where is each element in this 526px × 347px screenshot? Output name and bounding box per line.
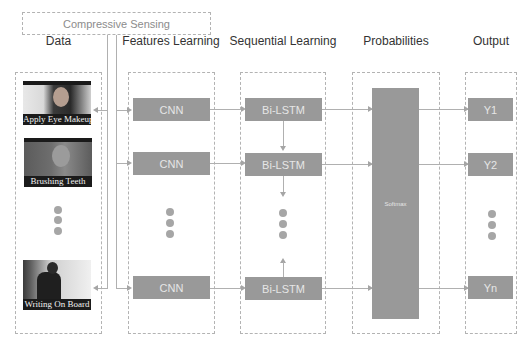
data-thumbnail-brushing-teeth: Brushing Teeth [24,138,92,187]
bilstm-block-2: Bi-LSTM [245,153,322,176]
connector [97,110,107,111]
data-thumbnail-writing-on-board: Writing On Board [23,260,91,310]
arrow-down-icon [280,192,286,197]
connector [419,288,468,289]
connector [283,262,284,277]
cnn-label: CNN [160,104,184,116]
output-block-y1: Y1 [468,98,513,121]
thumbnail-caption: Apply Eye Makeup [23,114,91,125]
connector [210,288,244,289]
ellipsis-dot [488,221,496,229]
softmax-label: Softmax [384,201,406,207]
connector [322,164,372,165]
connector [283,121,284,148]
arrow-right-icon [127,107,132,113]
thumbnail-caption: Writing On Board [23,299,91,310]
ellipsis-dot [279,220,287,228]
ellipsis-dot [279,209,287,217]
bilstm-label: Bi-LSTM [262,159,305,171]
output-block-yn: Yn [468,276,513,299]
heading-sequential-learning: Sequential Learning [225,34,341,52]
compressive-sensing-label: Compressive Sensing [63,18,170,30]
cnn-block-3: CNN [133,276,210,299]
bilstm-block-3: Bi-LSTM [245,277,322,300]
ellipsis-dot [166,208,174,216]
thumbnail-caption: Brushing Teeth [24,176,92,187]
heading-data: Data [15,34,102,52]
video-frame-image [24,142,92,176]
arrow-right-icon [127,285,132,291]
ellipsis-dot [166,230,174,238]
connector [419,164,468,165]
bilstm-label: Bi-LSTM [262,104,305,116]
cnn-label: CNN [160,158,184,170]
output-label: Yn [484,282,497,294]
softmax-block: Softmax [372,88,419,319]
heading-features-learning: Features Learning [115,34,227,52]
output-block-y2: Y2 [468,153,513,176]
ellipsis-dot [54,227,62,235]
ellipsis-dot [54,206,62,214]
cs-feed-line-data [107,35,108,289]
ellipsis-dot [279,231,287,239]
connector [210,109,244,110]
compressive-sensing-box: Compressive Sensing [22,12,211,35]
connector [97,288,107,289]
connector [419,109,468,110]
ellipsis-dot [166,219,174,227]
cnn-block-1: CNN [133,98,210,121]
arrow-down-icon [280,146,286,151]
heading-output: Output [465,34,517,52]
ellipsis-dot [488,210,496,218]
cs-feed-line-cnn [116,35,117,289]
connector [210,163,244,164]
cnn-block-2: CNN [133,152,210,175]
ellipsis-dot [54,216,62,224]
bilstm-block-1: Bi-LSTM [245,98,322,121]
cnn-label: CNN [160,282,184,294]
data-thumbnail-apply-eye-makeup: Apply Eye Makeup [23,81,91,125]
video-frame-image [23,85,91,114]
bilstm-label: Bi-LSTM [262,283,305,295]
connector [322,109,372,110]
arrow-left-icon [93,107,98,113]
video-frame-image [23,260,91,299]
ellipsis-dot [488,232,496,240]
arrow-left-icon [93,285,98,291]
connector [322,288,372,289]
output-label: Y2 [484,159,497,171]
arrow-right-icon [127,160,132,166]
heading-probabilities: Probabilities [352,34,440,52]
output-label: Y1 [484,104,497,116]
